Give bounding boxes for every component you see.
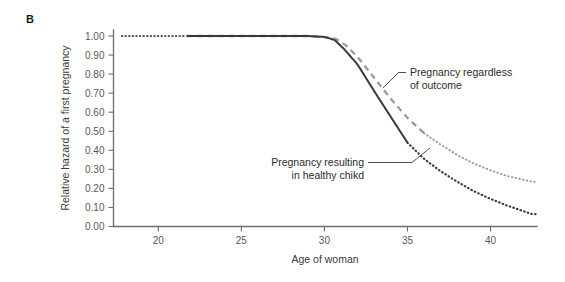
annotation-lower-line2: in healthy chikd <box>292 169 365 181</box>
y-tick-label: 0.50 <box>85 126 105 137</box>
x-axis-title: Age of woman <box>291 253 358 265</box>
series-segment-extrapolated-right <box>424 133 537 182</box>
annotation-upper-line2: of outcome <box>410 79 462 91</box>
series-segment-observed <box>187 36 408 143</box>
y-tick-label: 1.00 <box>85 31 105 42</box>
y-tick-label: 0.80 <box>85 69 105 80</box>
y-tick-label: 0.20 <box>85 183 105 194</box>
x-tick-label: 25 <box>236 235 248 246</box>
y-tick-label: 0.00 <box>85 221 105 232</box>
x-tick-label: 30 <box>319 235 331 246</box>
x-tick-label: 20 <box>153 235 165 246</box>
annotation-leader-lower <box>368 148 430 163</box>
y-axis-title: Relative hazard of a first pregnancy <box>59 45 71 211</box>
hazard-chart: 0.000.100.200.300.400.500.600.700.800.90… <box>0 0 565 282</box>
figure-panel-b: B 0.000.100.200.300.400.500.600.700.800.… <box>0 0 565 282</box>
annotation-lower-line1: Pregnancy resulting <box>271 156 364 168</box>
y-tick-label: 0.30 <box>85 164 105 175</box>
y-tick-label: 0.70 <box>85 88 105 99</box>
series-layer <box>122 36 537 214</box>
x-tick-label: 35 <box>402 235 414 246</box>
annotation-leader-upper <box>383 73 406 89</box>
y-tick-label: 0.40 <box>85 145 105 156</box>
x-axis-ticks: 2025303540 <box>153 227 497 246</box>
y-tick-label: 0.60 <box>85 107 105 118</box>
series-segment-extrapolated-right <box>407 143 537 214</box>
y-axis-ticks: 0.000.100.200.300.400.500.600.700.800.90… <box>85 31 113 233</box>
x-tick-label: 40 <box>485 235 497 246</box>
y-tick-label: 0.90 <box>85 50 105 61</box>
annotation-upper-line1: Pregnancy regardless <box>410 66 512 78</box>
series-healthy-child <box>122 36 537 214</box>
y-tick-label: 0.10 <box>85 202 105 213</box>
series-segment-observed <box>187 36 425 133</box>
